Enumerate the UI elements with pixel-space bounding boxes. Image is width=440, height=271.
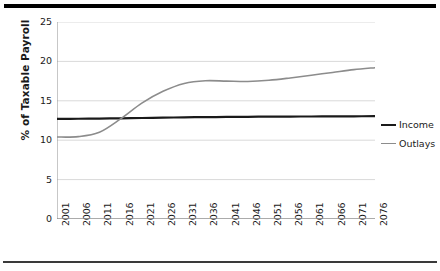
figure: % of Taxable Payroll 0510152025 20012006… bbox=[0, 0, 440, 271]
legend-label: Income bbox=[399, 120, 434, 130]
x-tick-label: 2076 bbox=[379, 186, 389, 226]
series-layer bbox=[57, 68, 375, 137]
legend-item-outlays[interactable]: Outlays bbox=[381, 134, 439, 153]
legend-line-swatch-icon bbox=[381, 143, 396, 144]
series-line-income bbox=[57, 116, 375, 119]
chart-legend: IncomeOutlays bbox=[381, 115, 439, 153]
bottom-divider-rule bbox=[3, 261, 437, 263]
legend-line-swatch-icon bbox=[381, 124, 396, 126]
axis-lines bbox=[57, 22, 375, 219]
legend-item-income[interactable]: Income bbox=[381, 115, 439, 134]
legend-label: Outlays bbox=[399, 139, 435, 149]
series-line-outlays bbox=[57, 68, 375, 137]
plot-area bbox=[57, 22, 375, 219]
gridlines bbox=[57, 22, 375, 219]
plot-svg bbox=[57, 22, 375, 219]
